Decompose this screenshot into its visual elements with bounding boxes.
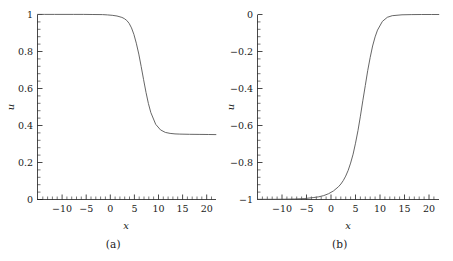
svg-text:−10: −10 [52, 203, 72, 214]
svg-text:−5: −5 [79, 203, 93, 214]
y-axis-title-b: u [227, 104, 236, 110]
svg-text:1: 1 [27, 9, 33, 20]
svg-text:−5: −5 [299, 203, 313, 214]
curve-b [257, 15, 438, 200]
svg-text:20: 20 [422, 203, 434, 214]
svg-text:−0.6: −0.6 [229, 120, 252, 131]
svg-text:5: 5 [131, 203, 137, 214]
svg-text:0: 0 [107, 203, 113, 214]
svg-text:5: 5 [352, 203, 358, 214]
svg-text:20: 20 [201, 203, 213, 214]
y-minor-ticks [257, 22, 260, 192]
y-minor-ticks [38, 22, 41, 192]
svg-text:0.2: 0.2 [18, 157, 33, 168]
svg-text:−1: −1 [238, 194, 252, 205]
svg-text:−0.2: −0.2 [229, 46, 252, 57]
svg-text:0: 0 [246, 9, 252, 20]
svg-text:0.4: 0.4 [18, 120, 33, 131]
curve-a [38, 14, 216, 134]
two-panel-figure: −10 −5 0 5 10 15 20 0 0.2 0.4 0.6 0.8 1 … [0, 0, 453, 261]
y-major-ticks [38, 15, 43, 200]
x-major-ticks [62, 195, 207, 200]
svg-text:0.8: 0.8 [18, 46, 33, 57]
svg-text:10: 10 [373, 203, 385, 214]
y-tick-labels: 0 0.2 0.4 0.6 0.8 1 [18, 9, 33, 205]
svg-text:−0.4: −0.4 [229, 83, 252, 94]
y-axis-title-a: u [5, 104, 16, 110]
svg-text:−0.8: −0.8 [229, 157, 252, 168]
x-tick-labels: −10 −5 0 5 10 15 20 [271, 203, 434, 214]
panel-caption-b: (b) [227, 238, 453, 250]
svg-text:15: 15 [177, 203, 189, 214]
svg-text:0: 0 [27, 194, 33, 205]
plot-a-svg: −10 −5 0 5 10 15 20 0 0.2 0.4 0.6 0.8 1 … [0, 0, 227, 236]
plot-b-svg: −10 −5 0 5 10 15 20 −1 −0.8 −0.6 −0.4 −0… [227, 0, 453, 236]
x-axis-title-a: x [123, 220, 129, 231]
plot-a-axes [37, 15, 216, 200]
x-minor-ticks [43, 197, 212, 200]
x-tick-labels: −10 −5 0 5 10 15 20 [52, 203, 213, 214]
svg-text:10: 10 [152, 203, 164, 214]
svg-text:−10: −10 [271, 203, 291, 214]
svg-text:0: 0 [327, 203, 333, 214]
panel-a: −10 −5 0 5 10 15 20 0 0.2 0.4 0.6 0.8 1 … [0, 0, 227, 261]
svg-text:0.6: 0.6 [18, 83, 33, 94]
svg-text:15: 15 [398, 203, 410, 214]
panel-caption-a: (a) [0, 238, 227, 250]
x-axis-title-b: x [345, 220, 351, 231]
y-major-ticks [257, 15, 262, 200]
panel-b: −10 −5 0 5 10 15 20 −1 −0.8 −0.6 −0.4 −0… [227, 0, 453, 261]
